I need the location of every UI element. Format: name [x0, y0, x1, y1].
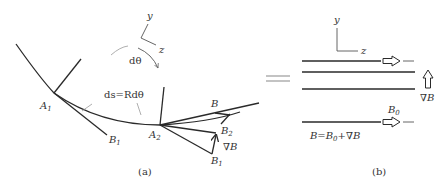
point-a1-label: A1: [39, 100, 52, 113]
z-axis-label-b: z: [360, 45, 367, 56]
hollow-arrow-4: [383, 117, 400, 127]
b-arrow-tick: [215, 113, 230, 115]
caption-b: (b): [372, 166, 386, 177]
tangent-line-a2-b: [160, 103, 259, 125]
point-a2-label: A2: [148, 129, 161, 142]
field-equation: B=B0+∇B: [309, 130, 360, 143]
hollow-arrow-1: [383, 56, 400, 66]
point-b2-label: B2: [220, 125, 233, 138]
gradient-label-a: ∇B: [223, 141, 237, 152]
arc-length-label: ds=Rdθ: [104, 89, 144, 100]
tangent-line-a1-b1: [54, 93, 107, 135]
y-axis-a: [141, 24, 148, 38]
gradient-hollow-arrow: [423, 70, 433, 88]
dtheta-arc-left: [111, 46, 128, 55]
point-b-label: B: [210, 98, 218, 109]
z-axis-label-a: z: [158, 44, 165, 55]
panel-b: y z ∇B B0 B=B0+∇B (b): [302, 14, 434, 177]
b0-label: B0: [387, 104, 400, 117]
dtheta-label: dθ: [129, 55, 141, 66]
gradient-arrow: [212, 135, 216, 154]
gradient-label-b: ∇B: [420, 92, 434, 103]
normal-line-a1: [54, 59, 81, 93]
y-axis-label-a: y: [146, 10, 153, 21]
normal-line-a2: [160, 87, 164, 125]
caption-a: (a): [138, 166, 152, 177]
magnetic-field-curvature-diagram: y z dθ ds=Rdθ A1 B1 A2 B B2 ∇B B1 (a): [0, 0, 444, 186]
radius-tick-right: [137, 103, 141, 115]
radius-tick-left: [82, 104, 92, 111]
panel-a: y z dθ ds=Rdθ A1 B1 A2 B B2 ∇B B1 (a): [16, 10, 259, 177]
point-b1-right-label: B1: [210, 155, 223, 168]
y-axis-label-b: y: [333, 14, 340, 25]
z-axis-a: [141, 38, 156, 45]
point-b1-left-label: B1: [108, 134, 121, 147]
equals-sign: [266, 76, 290, 81]
